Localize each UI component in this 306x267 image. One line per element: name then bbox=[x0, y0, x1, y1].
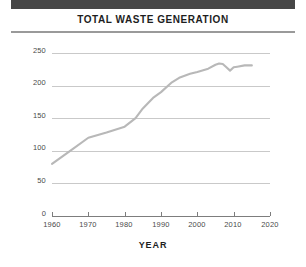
y-tick-label-250: 250 bbox=[20, 47, 46, 55]
top-banner-bar bbox=[11, 0, 295, 9]
x-tick-label-1970: 1970 bbox=[73, 221, 103, 229]
x-tick-label-2010: 2010 bbox=[218, 221, 248, 229]
plot-area bbox=[52, 53, 270, 216]
x-tick-label-2020: 2020 bbox=[255, 221, 285, 229]
x-tick-label-1990: 1990 bbox=[146, 221, 176, 229]
x-tick-label-2000: 2000 bbox=[182, 221, 212, 229]
chart-title: TOTAL WASTE GENERATION bbox=[0, 14, 306, 25]
y-tick-label-100: 100 bbox=[20, 144, 46, 152]
x-axis-line bbox=[52, 216, 270, 217]
x-tick-label-1960: 1960 bbox=[37, 221, 67, 229]
x-tick-label-1980: 1980 bbox=[109, 221, 139, 229]
y-tick-label-150: 150 bbox=[20, 112, 46, 120]
x-axis-title: YEAR bbox=[0, 240, 306, 250]
y-tick-label-200: 200 bbox=[20, 79, 46, 87]
title-divider bbox=[11, 31, 295, 33]
x-axis-tick-2020 bbox=[270, 212, 271, 216]
y-tick-label-0: 0 bbox=[20, 210, 46, 218]
waste-generation-line-series bbox=[52, 53, 270, 216]
chart-page: TOTAL WASTE GENERATION MILLIONS OF METRI… bbox=[0, 0, 306, 267]
y-tick-label-50: 50 bbox=[20, 177, 46, 185]
